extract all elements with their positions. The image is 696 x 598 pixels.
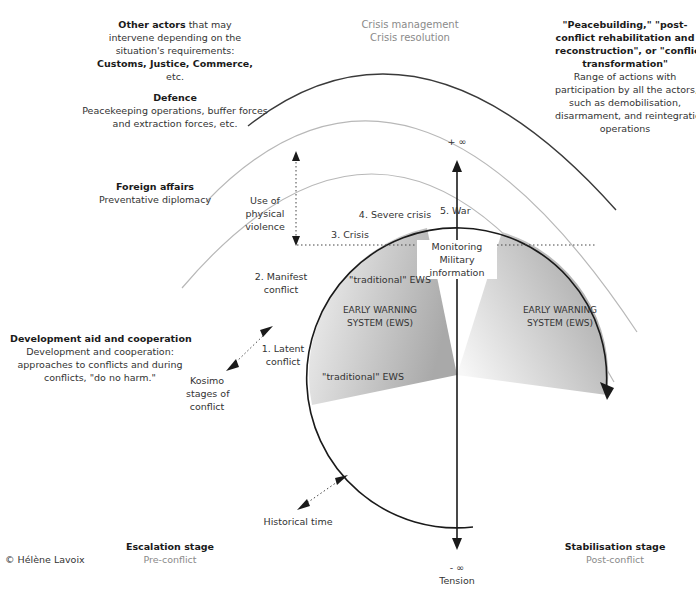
foreign-affairs-block: Foreign affairs Preventative diplomacy bbox=[80, 180, 230, 206]
defence-block: Defence Peacekeeping operations, buffer … bbox=[70, 91, 280, 130]
ews-right-label: EARLY WARNING SYSTEM (EWS) bbox=[510, 304, 610, 330]
ews-left-label: EARLY WARNING SYSTEM (EWS) bbox=[330, 304, 430, 330]
physical-violence-label: Use of physical violence bbox=[240, 194, 290, 233]
historical-time-label: Historical time bbox=[258, 515, 338, 528]
foreign-affairs-heading: Foreign affairs bbox=[80, 180, 230, 193]
development-aid-block: Development aid and cooperation Developm… bbox=[10, 332, 190, 384]
stage-severe-crisis: 4. Severe crisis bbox=[355, 208, 435, 221]
escalation-stage-block: Escalation stage Pre-conflict bbox=[120, 540, 220, 566]
plus-infinity-label: + ∞ bbox=[437, 135, 477, 148]
stage-latent-conflict: 1. Latent conflict bbox=[258, 342, 308, 368]
minus-infinity-label: - ∞ Tension bbox=[432, 561, 482, 587]
other-actors-heading: Other actors bbox=[118, 19, 185, 30]
stabilisation-stage-block: Stabilisation stage Post-conflict bbox=[560, 540, 670, 566]
stage-manifest-conflict: 2. Manifest conflict bbox=[246, 270, 316, 296]
tension-label: Tension bbox=[432, 574, 482, 587]
peacebuilding-block: "Peacebuilding," "post- conflict rehabil… bbox=[555, 18, 695, 135]
axis-arrow-down bbox=[452, 538, 462, 550]
traditional-ews-top: "traditional" EWS bbox=[345, 273, 435, 286]
stage-war: 5. War bbox=[440, 204, 480, 217]
stage-crisis: 3. Crisis bbox=[325, 228, 375, 241]
axis-arrow-up bbox=[452, 160, 462, 172]
traditional-ews-bottom: "traditional" EWS bbox=[318, 370, 408, 383]
defence-heading: Defence bbox=[70, 91, 280, 104]
crisis-management-title: Crisis management Crisis resolution bbox=[330, 18, 490, 44]
other-actors-block: Other actors that may intervene dependin… bbox=[95, 18, 255, 83]
development-aid-heading: Development aid and cooperation bbox=[10, 332, 190, 345]
kosimo-stages-label: Kosimo stages of conflict bbox=[186, 374, 228, 413]
copyright-label: © Hélène Lavoix bbox=[5, 553, 85, 566]
